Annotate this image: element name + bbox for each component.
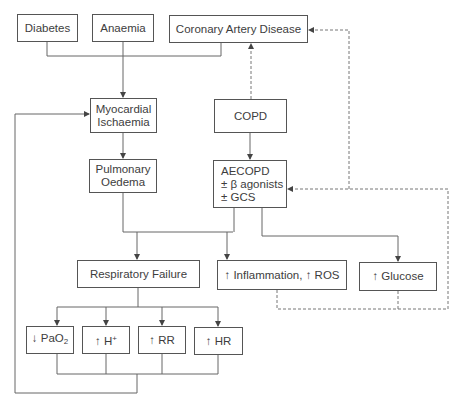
node-label: ↑ RR [149,334,175,347]
node-inflammation-ros: ↑ Inflammation, ↑ ROS [217,260,347,290]
node-aecopd: AECOPD ± β agonists ± GCS [213,160,287,208]
diagram-canvas: Diabetes Anaemia Coronary Artery Disease… [0,0,460,408]
node-label-line1: Pulmonary [96,163,151,176]
node-h-plus: ↑ H+ [82,326,130,354]
node-glucose: ↑ Glucose [359,262,437,291]
edge-diabetes [47,42,221,56]
node-copd: COPD [214,99,287,133]
node-pulmonary-oedema: Pulmonary Oedema [89,159,157,193]
node-label: Coronary Artery Disease [176,23,301,36]
node-label: ↑ H+ [95,332,117,348]
node-label-line2: Ischaemia [96,116,152,129]
node-label: ↑ Inflammation, ↑ ROS [224,269,339,282]
node-label: ↑ Glucose [372,270,423,283]
node-label-line3: ± GCS [221,191,283,204]
node-label-line2: Oedema [96,176,151,189]
node-label: Respiratory Failure [90,268,187,281]
node-label: Anaemia [100,22,145,35]
node-label: ↓ PaO2 [32,332,68,348]
node-label-line2: ± β agonists [221,178,283,191]
edge-aecopd-to-glucose [262,208,398,261]
node-rr: ↑ RR [138,326,186,354]
node-anaemia: Anaemia [92,14,154,42]
node-label-line1: Myocardial [96,103,152,116]
edge-inflammation-feedback [277,189,448,309]
node-respiratory-failure: Respiratory Failure [77,260,200,288]
node-label: ↑ HR [206,335,232,348]
node-coronary-artery-disease: Coronary Artery Disease [169,15,308,43]
node-pao2: ↓ PaO2 [26,326,74,354]
node-label-line1: AECOPD [221,165,283,178]
node-label: Diabetes [25,22,70,35]
node-myocardial-ischaemia: Myocardial Ischaemia [90,98,157,133]
edge-feedback-to-cad [309,30,349,189]
node-diabetes: Diabetes [17,14,78,42]
node-hr: ↑ HR [194,327,243,355]
node-label: COPD [234,110,267,123]
edge-bottom-merge [57,354,218,374]
